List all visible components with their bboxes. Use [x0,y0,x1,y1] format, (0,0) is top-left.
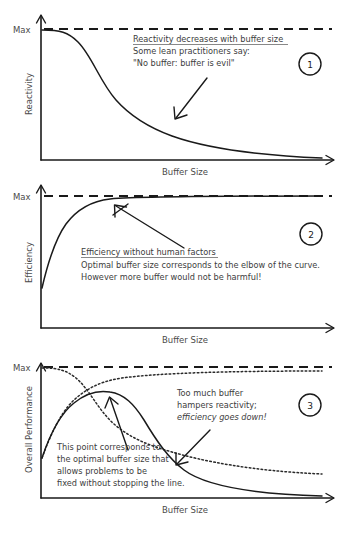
panel1-x-axis-label: Buffer Size [162,167,208,177]
panel-reactivity: Max Reactivity Buffer Size Reactivity de… [13,15,334,177]
svg-text:2: 2 [308,230,314,240]
panel3-right-annotation-arrow [176,430,210,465]
panel3-left-note-line-4: fixed without stopping the line. [57,478,185,488]
panel3-y-max-label: Max [13,363,31,373]
panel2-badge: 2 [300,223,322,245]
panel3-right-note-line-2: hampers reactivity; [177,400,257,410]
panel3-left-note-line-3: allows problems to be [57,466,147,476]
panel2-note-line-2: Optimal buffer size corresponds to the e… [81,260,320,270]
svg-text:3: 3 [307,401,313,411]
panel1-y-axis [37,15,46,160]
panel2-x-axis [41,324,334,333]
panel2-note-line-1: Efficiency without human factors [81,247,216,257]
panel3-y-axis-label: Overall Performance [24,386,34,473]
buffer-size-figure: Max Reactivity Buffer Size Reactivity de… [0,0,346,535]
panel3-y-axis [37,363,46,498]
panel3-x-axis-label: Buffer Size [162,505,208,515]
panel1-annotation-arrow [174,78,207,119]
panel1-badge: 1 [299,53,321,75]
panel-efficiency: Max Efficiency Buffer Size Efficiency wi… [13,185,334,345]
panel2-y-max-label: Max [13,192,31,202]
panel1-y-axis-label: Reactivity [24,73,34,115]
panel-overall-performance: Max Overall Performance Buffer Size Too … [13,363,334,515]
panel1-note-line-3: "No buffer: buffer is evil" [133,58,235,68]
panel2-annotation-arrow [113,204,184,248]
panel3-right-note-line-1: Too much buffer [176,388,244,398]
panel3-badge: 3 [299,394,321,416]
panel1-note-line-2: Some lean practitioners say: [133,46,250,56]
panel2-x-axis-label: Buffer Size [162,335,208,345]
panel1-note-line-1: Reactivity decreases with buffer size [133,34,283,44]
panel3-left-note-line-1: This point corresponds to [56,442,161,452]
svg-text:1: 1 [307,60,313,70]
panel3-left-note-line-2: the optimal buffer size that [57,454,170,464]
panel2-note-line-3: However more buffer would not be harmful… [81,272,261,282]
panel2-y-axis [37,185,46,328]
panel1-y-max-label: Max [13,25,31,35]
panel3-right-note-line-3: efficiency goes down! [177,412,267,422]
panel2-y-axis-label: Efficiency [24,242,34,283]
